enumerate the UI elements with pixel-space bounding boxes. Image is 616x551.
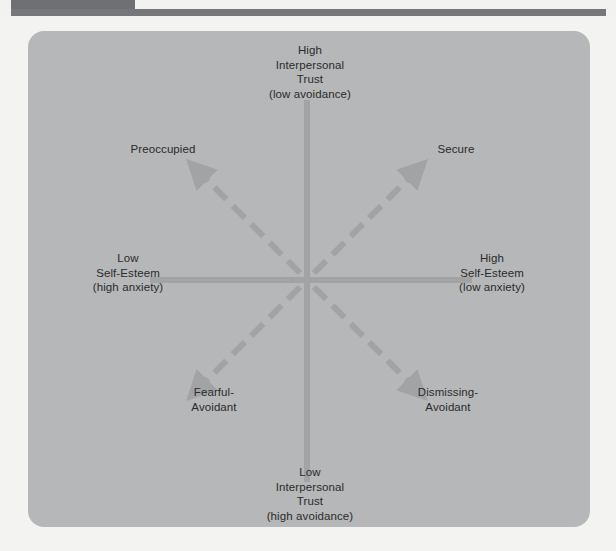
quadrant-diagram-panel: High Interpersonal Trust (low avoidance)… bbox=[28, 31, 590, 527]
axis-label-right-line2: Self-Esteem bbox=[434, 266, 550, 281]
horizontal-axis-line bbox=[150, 277, 472, 283]
axis-label-top-line2: Interpersonal bbox=[227, 58, 393, 73]
axis-label-right-high-self-esteem: High Self-Esteem (low anxiety) bbox=[434, 251, 550, 295]
axis-label-top-line3: Trust bbox=[227, 72, 393, 87]
axis-label-left-line1: Low bbox=[70, 251, 186, 266]
axis-label-left-line3: (high anxiety) bbox=[70, 280, 186, 295]
arrow-up-left-preoccupied bbox=[192, 165, 300, 273]
axis-label-bottom-low-interpersonal-trust: Low Interpersonal Trust (high avoidance) bbox=[227, 465, 393, 523]
arrow-down-right-dismissing-avoidant bbox=[314, 287, 422, 395]
quadrant-label-preoccupied-line1: Preoccupied bbox=[103, 142, 223, 157]
axis-label-top-line4: (low avoidance) bbox=[227, 87, 393, 102]
arrow-down-left-fearful-avoidant bbox=[192, 287, 300, 395]
axis-label-top-line1: High bbox=[227, 43, 393, 58]
quadrant-label-secure: Secure bbox=[396, 142, 516, 157]
axis-label-bottom-line1: Low bbox=[227, 465, 393, 480]
axis-label-bottom-line4: (high avoidance) bbox=[227, 509, 393, 524]
axis-label-left-line2: Self-Esteem bbox=[70, 266, 186, 281]
vertical-axis-line bbox=[304, 100, 310, 482]
axis-label-bottom-line3: Trust bbox=[227, 494, 393, 509]
quadrant-label-dismissing-line2: Avoidant bbox=[378, 400, 518, 415]
quadrant-label-fearful-avoidant: Fearful- Avoidant bbox=[154, 385, 274, 414]
axis-label-bottom-line2: Interpersonal bbox=[227, 480, 393, 495]
page-header-tab-block bbox=[11, 0, 135, 9]
axis-label-right-line3: (low anxiety) bbox=[434, 280, 550, 295]
axis-label-left-low-self-esteem: Low Self-Esteem (high anxiety) bbox=[70, 251, 186, 295]
axis-label-top-high-interpersonal-trust: High Interpersonal Trust (low avoidance) bbox=[227, 43, 393, 101]
axis-label-right-line1: High bbox=[434, 251, 550, 266]
quadrant-label-fearful-line2: Avoidant bbox=[154, 400, 274, 415]
quadrant-label-dismissing-line1: Dismissing- bbox=[378, 385, 518, 400]
quadrant-label-dismissing-avoidant: Dismissing- Avoidant bbox=[378, 385, 518, 414]
arrow-up-right-secure bbox=[314, 165, 422, 273]
quadrant-label-preoccupied: Preoccupied bbox=[103, 142, 223, 157]
page-header-rule bbox=[11, 9, 606, 16]
quadrant-label-secure-line1: Secure bbox=[396, 142, 516, 157]
quadrant-label-fearful-line1: Fearful- bbox=[154, 385, 274, 400]
